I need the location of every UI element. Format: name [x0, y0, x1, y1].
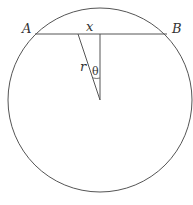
label-r: r — [80, 59, 87, 74]
label-x: x — [86, 19, 94, 34]
angle-arc — [93, 78, 100, 79]
circle-chord-diagram: A B x r θ — [0, 0, 193, 205]
label-b: B — [171, 21, 182, 36]
label-theta: θ — [92, 65, 99, 78]
label-a: A — [21, 21, 31, 36]
